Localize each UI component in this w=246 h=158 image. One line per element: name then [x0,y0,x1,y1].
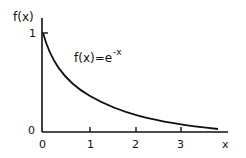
x-tick-label-2: 2 [132,138,139,151]
function-annotation-exponent: -x [113,47,122,57]
x-axis-label: x [222,138,229,151]
y-axis-label: f(x) [13,10,34,24]
x-tick-label-0: 0 [39,138,46,151]
exponential-decay-chart: f(x) 1 0 0 1 2 3 x f(x)=e -x [0,0,246,158]
function-annotation: f(x)=e [74,51,112,65]
y-tick-label-0: 0 [28,124,35,137]
curve-exp-decay [43,33,218,129]
x-tick-label-3: 3 [177,138,184,151]
y-tick-label-1: 1 [29,27,36,40]
x-tick-label-1: 1 [87,138,94,151]
